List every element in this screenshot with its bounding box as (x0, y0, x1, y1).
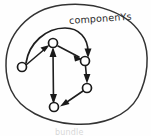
graph-node-n5[interactable] (50, 103, 59, 112)
sketch-canvas: componenYs bundle (0, 0, 151, 136)
edge-n2-n3 (58, 46, 79, 57)
graph-node-n1[interactable] (18, 63, 27, 72)
arrowhead-n4-n5 (60, 99, 70, 107)
graph-node-n4[interactable] (83, 84, 92, 93)
edge-n2-n5 (53, 50, 54, 101)
arrowhead-n5-n2-up (50, 47, 57, 57)
arrowhead-n3-n4 (84, 74, 91, 84)
graph-node-n3[interactable] (81, 57, 90, 66)
graph-node-n2[interactable] (49, 39, 58, 48)
bottom-caption-label: bundle (55, 128, 84, 136)
